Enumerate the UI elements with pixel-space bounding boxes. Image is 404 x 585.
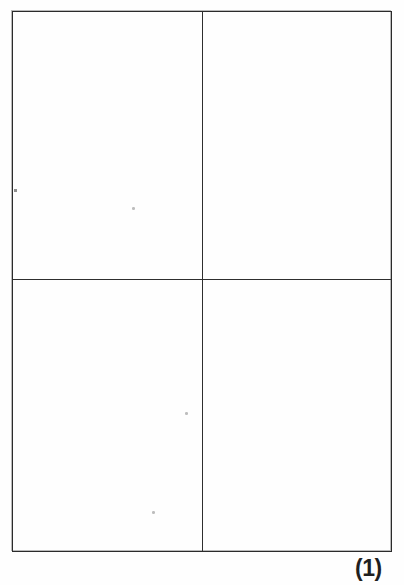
figure-caption: (1) [355,557,382,580]
vertical-divider-line [202,12,204,551]
horizontal-divider-line [13,279,391,281]
quadrant-top-right[interactable] [203,12,390,279]
quadrant-bottom-right[interactable] [203,280,390,549]
scanned-page: (1) [0,0,404,585]
figure-rectangle [12,11,392,552]
quadrant-top-left[interactable] [13,12,202,279]
quadrant-bottom-left[interactable] [13,280,202,549]
